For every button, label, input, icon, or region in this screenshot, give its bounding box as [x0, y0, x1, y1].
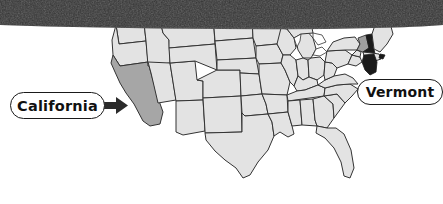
- callout-vermont-label: Vermont: [366, 84, 435, 100]
- arrow-right-icon: [103, 96, 129, 115]
- figure-canvas: .st{fill:#e3e3e3;stroke:#333;stroke-widt…: [0, 0, 443, 204]
- callout-california[interactable]: California: [10, 92, 105, 119]
- callout-vermont[interactable]: Vermont: [357, 79, 443, 105]
- callout-california-label: California: [17, 98, 98, 114]
